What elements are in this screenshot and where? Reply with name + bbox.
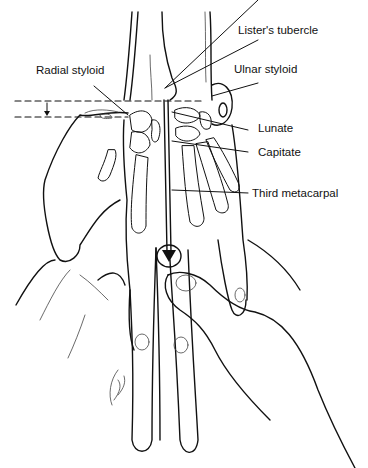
label-third-metacarpal: Third metacarpal <box>252 188 338 200</box>
label-capitate: Capitate <box>258 147 301 159</box>
label-radial-styloid: Radial styloid <box>36 65 104 77</box>
label-listers-tubercle: Lister's tubercle <box>238 25 318 37</box>
label-lunate: Lunate <box>258 123 293 135</box>
label-ulnar-styloid: Ulnar styloid <box>234 64 297 76</box>
